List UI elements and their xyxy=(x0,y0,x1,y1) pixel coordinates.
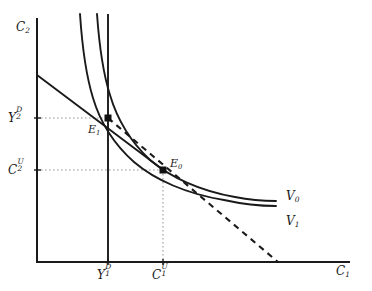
tick-label-y2d-base: Y xyxy=(8,111,16,125)
tick-label-y1d-sub: 1 xyxy=(105,270,110,277)
tick-label-y2d: YD2 xyxy=(8,110,22,124)
budget-line-solid xyxy=(37,75,166,172)
tick-label-c1u-sub: 1 xyxy=(161,270,166,277)
curve-label-v0-base: V xyxy=(286,189,295,203)
y-axis-label-base: C xyxy=(16,20,25,34)
tick-label-c1u: CU1 xyxy=(152,267,167,281)
tick-label-c2u-sub: 2 xyxy=(17,165,22,172)
point-label-e0: E0 xyxy=(170,158,182,169)
point-label-e1-sub: 1 xyxy=(96,129,100,137)
guide-lines xyxy=(37,118,163,262)
tick-marks xyxy=(34,118,163,265)
point-label-e0-base: E xyxy=(170,157,178,170)
point-label-e1-base: E xyxy=(88,123,96,136)
x-axis-label: C1 xyxy=(336,265,350,277)
curve-label-v1-sub: 1 xyxy=(295,220,300,229)
indifference-curve-v0 xyxy=(97,14,276,201)
curve-label-v0-sub: 0 xyxy=(295,195,300,204)
y-axis-label: C2 xyxy=(16,21,30,33)
curve-label-v0: V0 xyxy=(286,190,299,202)
point-label-e0-sub: 0 xyxy=(178,163,182,171)
curve-label-v1-base: V xyxy=(286,214,295,228)
point-marker-e0 xyxy=(160,167,167,174)
economics-diagram: C2 C1 YD2 CU2 YD1 CU1 E1 E0 xyxy=(0,0,372,291)
point-marker-e1 xyxy=(105,115,112,122)
curve-label-v1: V1 xyxy=(286,215,299,227)
tick-label-y2d-sub: 2 xyxy=(16,113,21,120)
point-label-e1: E1 xyxy=(88,124,100,135)
x-axis-label-base: C xyxy=(336,264,345,278)
tick-label-c1u-base: C xyxy=(152,268,161,282)
tick-label-c2u-base: C xyxy=(8,163,17,177)
diagram-canvas xyxy=(0,0,372,291)
x-axis-label-sub: 1 xyxy=(345,270,350,279)
tick-label-c2u: CU2 xyxy=(8,162,23,176)
y-axis-label-sub: 2 xyxy=(25,26,30,35)
budget-line-dashed xyxy=(108,118,278,262)
tick-label-y1d-base: Y xyxy=(97,268,105,282)
tick-label-y1d: YD1 xyxy=(97,267,111,281)
